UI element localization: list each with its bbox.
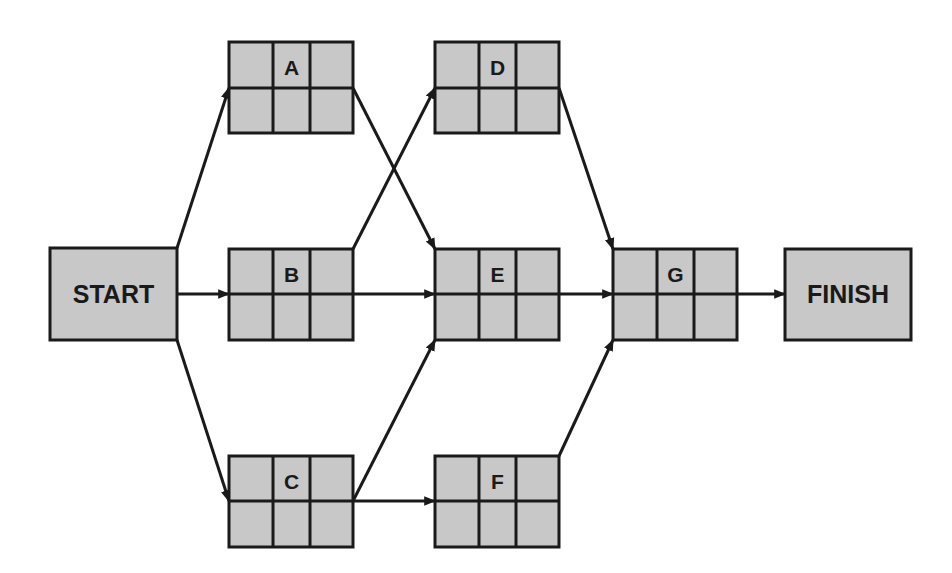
node-a: A xyxy=(229,42,353,133)
node-g-label: G xyxy=(667,263,683,286)
node-g: G xyxy=(613,249,737,340)
edge-f-g xyxy=(559,340,613,456)
node-f-label: F xyxy=(491,470,504,493)
edge-d-g xyxy=(559,88,613,249)
node-a-label: A xyxy=(284,56,299,79)
edge-start-c xyxy=(177,340,229,501)
node-c-label: C xyxy=(284,470,299,493)
node-finish: FINISH xyxy=(785,249,911,340)
edge-start-a xyxy=(177,88,229,248)
node-b: B xyxy=(229,249,353,340)
edge-c-e xyxy=(353,340,435,501)
node-start-label: START xyxy=(73,280,154,308)
node-f: F xyxy=(435,456,559,547)
node-c: C xyxy=(229,456,353,547)
node-b-label: B xyxy=(284,263,299,286)
node-d-label: D xyxy=(490,56,505,79)
node-e-label: E xyxy=(490,263,504,286)
node-start: START xyxy=(50,248,177,340)
node-finish-label: FINISH xyxy=(807,280,889,308)
network-diagram: START A B C D E xyxy=(0,0,952,573)
node-d: D xyxy=(435,42,559,133)
node-e: E xyxy=(435,249,559,340)
